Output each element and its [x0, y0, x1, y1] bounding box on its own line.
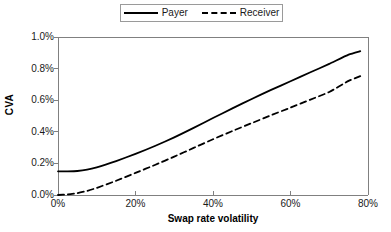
- axis-lines: [58, 37, 368, 195]
- plot-area: [0, 0, 391, 232]
- data-line-receiver: [58, 76, 360, 195]
- data-line-payer: [58, 51, 360, 171]
- cva-line-chart: Payer Receiver CVA Swap rate volatility …: [0, 0, 391, 232]
- axis-tick-marks: [54, 37, 368, 195]
